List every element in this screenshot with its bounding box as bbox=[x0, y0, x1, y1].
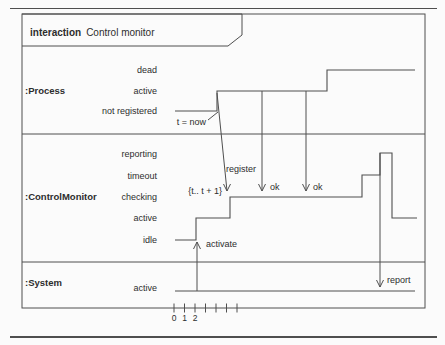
annotation-pointer-line bbox=[208, 112, 218, 120]
state-timeline-controlmonitor bbox=[175, 153, 417, 240]
timing-diagram-canvas bbox=[0, 0, 445, 345]
message-line-register bbox=[217, 93, 227, 191]
state-timeline-process bbox=[175, 70, 415, 111]
timing-diagram-figure: interactionControl monitor :Processdeada… bbox=[0, 0, 445, 345]
frame-label-pentagon bbox=[22, 14, 242, 46]
